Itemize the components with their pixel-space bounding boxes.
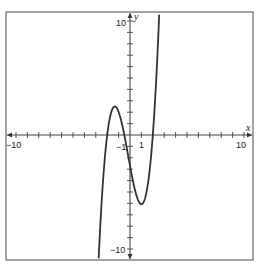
y-axis-label: y <box>133 11 139 22</box>
y-max-label: 10 <box>116 18 126 28</box>
y-min-label: −10 <box>110 245 125 255</box>
x-min-label: −10 <box>6 140 21 150</box>
function-graph: x y −10 10 −1 1 10 −10 <box>0 0 256 268</box>
x-axis-label: x <box>245 122 251 133</box>
x-one-label: 1 <box>139 140 144 150</box>
x-neg-one-label: −1 <box>116 142 126 152</box>
x-max-label: 10 <box>236 140 246 150</box>
